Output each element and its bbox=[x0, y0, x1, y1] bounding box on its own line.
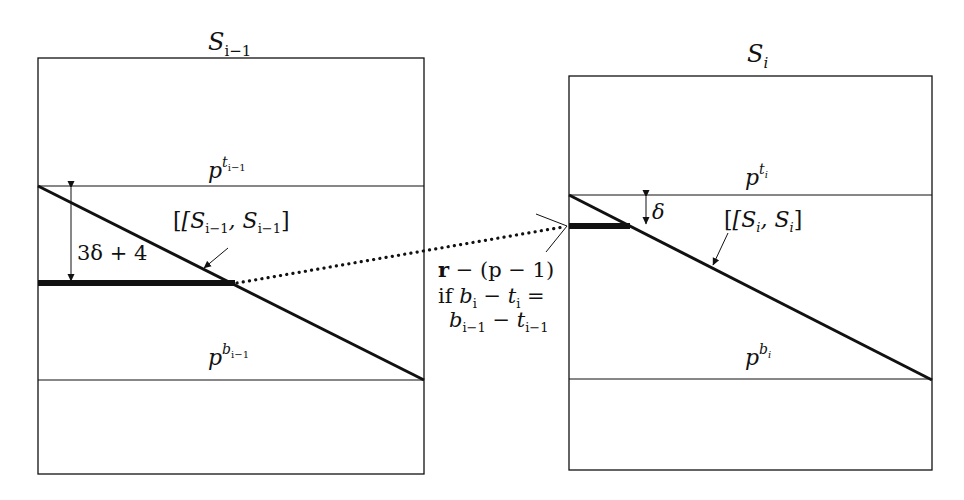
left-panel-title: Si−1 bbox=[208, 28, 251, 60]
right-segment-label: [[Si, Si] bbox=[724, 207, 802, 235]
right-gap-label: δ bbox=[652, 200, 665, 224]
right-panel-title: Si bbox=[747, 40, 768, 72]
diagram-canvas: Si−1 pti−1 pbi−1 3δ + 4 [[Si−1, Si−1] r … bbox=[0, 0, 964, 500]
left-panel: Si−1 pti−1 pbi−1 3δ + 4 [[Si−1, Si−1] bbox=[38, 28, 424, 474]
connector-arrowhead-upper bbox=[536, 214, 567, 226]
right-bottom-label: pbi bbox=[745, 341, 771, 370]
right-segment-pointer bbox=[713, 233, 728, 265]
connector-label-line1: r − (p − 1) bbox=[438, 257, 554, 282]
right-panel: Si pti pbi δ [[Si, Si] bbox=[569, 40, 932, 470]
left-segment-pointer bbox=[204, 248, 228, 268]
left-segment-label: [[Si−1, Si−1] bbox=[173, 208, 290, 236]
left-top-label: pti−1 bbox=[208, 154, 246, 183]
connector-label-line2: if bi − ti = bbox=[438, 284, 545, 311]
left-box bbox=[38, 58, 424, 474]
right-box bbox=[569, 76, 932, 470]
left-gap-label: 3δ + 4 bbox=[77, 241, 147, 265]
connector-arrowhead-lower bbox=[546, 226, 567, 252]
right-top-label: pti bbox=[745, 161, 768, 190]
left-bottom-label: pbi−1 bbox=[208, 341, 249, 370]
connector-label-line3: bi−1 − ti−1 bbox=[449, 308, 549, 335]
